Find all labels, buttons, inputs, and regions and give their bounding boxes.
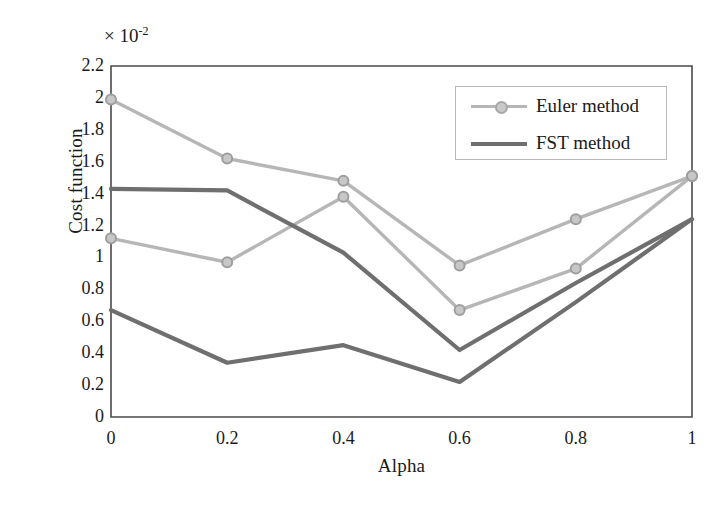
legend-label-euler: Euler method — [536, 95, 639, 117]
legend-swatch-fst-icon — [468, 133, 530, 153]
legend-swatch-euler-icon — [468, 96, 530, 116]
x-tick-label-3: 0.6 — [430, 429, 490, 447]
x-tick-label-1: 0.2 — [197, 429, 257, 447]
x-tick-label-0: 0 — [81, 429, 141, 447]
legend-item-euler-method: Euler method — [456, 87, 668, 124]
x-axis-tick-labels: 00.20.40.60.81 — [0, 0, 726, 516]
legend-label-fst: FST method — [536, 132, 630, 154]
x-tick-label-2: 0.4 — [313, 429, 373, 447]
chart-legend: Euler method FST method — [455, 86, 667, 160]
chart-figure: × 10-2 Cost function Alpha 00.20.40.60.8… — [0, 0, 726, 516]
legend-item-fst-method: FST method — [456, 124, 668, 161]
x-tick-label-5: 1 — [662, 429, 722, 447]
x-tick-label-4: 0.8 — [546, 429, 606, 447]
